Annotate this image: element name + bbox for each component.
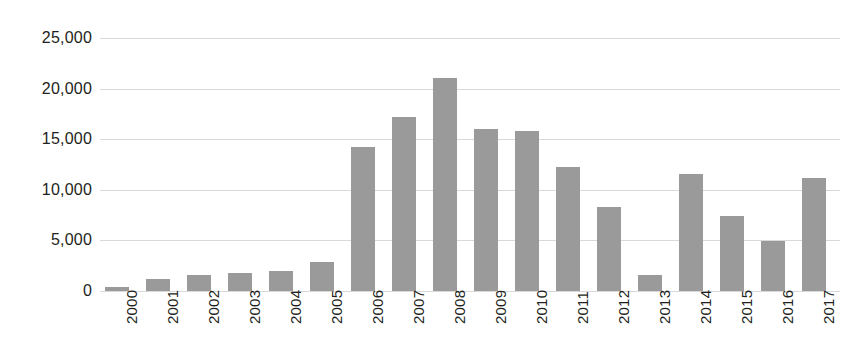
y-axis-tick-label: 5,000 xyxy=(51,232,92,248)
bar xyxy=(474,129,498,291)
bar xyxy=(679,174,703,291)
bar xyxy=(228,273,252,291)
x-axis-tick-label: 2000 xyxy=(124,298,139,322)
bar xyxy=(761,241,785,291)
y-axis-tick-label: 20,000 xyxy=(42,81,92,97)
bar xyxy=(351,147,375,291)
x-axis-tick-label: 2007 xyxy=(411,298,426,322)
x-axis-tick-label: 2016 xyxy=(780,298,795,322)
x-axis-tick-label: 2001 xyxy=(165,298,180,322)
bar xyxy=(802,178,826,291)
bar-chart: 05,00010,00015,00020,00025,000 200020012… xyxy=(0,0,858,364)
y-axis-tick-label: 25,000 xyxy=(42,30,92,46)
x-axis-tick-label: 2008 xyxy=(452,298,467,322)
x-axis-tick-label: 2017 xyxy=(821,298,836,322)
x-axis-tick-label: 2003 xyxy=(247,298,262,322)
bar xyxy=(556,167,580,291)
bars-layer xyxy=(100,38,840,291)
x-axis-tick-label: 2002 xyxy=(206,298,221,322)
x-axis-tick-label: 2013 xyxy=(657,298,672,322)
bar xyxy=(187,275,211,291)
y-axis-tick-label: 15,000 xyxy=(42,131,92,147)
x-axis-tick-label: 2006 xyxy=(370,298,385,322)
bar xyxy=(515,131,539,291)
bar xyxy=(720,216,744,291)
x-axis: 2000200120022003200420052006200720082009… xyxy=(100,292,840,364)
x-axis-tick-label: 2012 xyxy=(616,298,631,322)
bar xyxy=(310,262,334,291)
y-axis: 05,00010,00015,00020,00025,000 xyxy=(0,0,100,364)
x-axis-tick-label: 2009 xyxy=(493,298,508,322)
plot-area xyxy=(100,38,840,291)
bar xyxy=(597,207,621,291)
x-axis-tick-label: 2015 xyxy=(739,298,754,322)
x-axis-tick-label: 2014 xyxy=(698,298,713,322)
bar xyxy=(638,275,662,291)
y-axis-tick-label: 10,000 xyxy=(42,182,92,198)
bar xyxy=(433,78,457,291)
x-axis-tick-label: 2010 xyxy=(534,298,549,322)
x-axis-tick-label: 2004 xyxy=(288,298,303,322)
bar xyxy=(392,117,416,291)
y-axis-tick-label: 0 xyxy=(83,283,92,299)
x-axis-tick-label: 2011 xyxy=(575,298,590,322)
bar xyxy=(269,271,293,291)
x-axis-tick-label: 2005 xyxy=(329,298,344,322)
